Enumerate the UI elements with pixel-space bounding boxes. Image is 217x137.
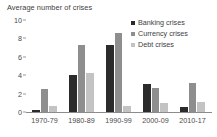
y-axis-tick-label: 0: [18, 108, 22, 117]
x-axis-line: [26, 112, 212, 113]
bar: [197, 102, 205, 112]
y-axis-tick-mark: [23, 93, 26, 94]
bar: [143, 84, 151, 112]
bar: [152, 88, 160, 112]
bar: [41, 89, 49, 112]
bar: [69, 75, 77, 112]
y-axis-tick-mark: [23, 38, 26, 39]
x-axis-tick-label: 1980-89: [68, 116, 94, 125]
y-axis-tick-mark: [23, 75, 26, 76]
y-axis-tick-label: 6: [18, 52, 22, 61]
bar-chart: Average number of crises 0246810 Banking…: [0, 0, 217, 137]
y-axis-tick-label: 10: [14, 16, 22, 25]
y-axis-tick-label: 2: [18, 89, 22, 98]
bar: [160, 103, 168, 112]
y-axis: 0246810: [0, 0, 22, 137]
y-axis-tick-mark: [23, 112, 26, 113]
chart-legend: Banking crisesCurrency crisesDebt crises: [131, 18, 188, 51]
legend-swatch-icon: [131, 32, 135, 36]
bar: [123, 106, 131, 112]
bar: [106, 45, 114, 112]
bar: [86, 73, 94, 112]
bar-group: [32, 20, 56, 112]
legend-item: Currency crises: [131, 29, 188, 39]
y-axis-tick-label: 8: [18, 34, 22, 43]
bar-group: [106, 20, 130, 112]
legend-item: Banking crises: [131, 18, 188, 28]
bar: [32, 110, 40, 112]
x-axis-tick-label: 1990-99: [105, 116, 131, 125]
bar: [189, 83, 197, 112]
bar: [78, 45, 86, 112]
bar: [49, 106, 57, 112]
x-axis-tick-label: 1970-79: [31, 116, 57, 125]
legend-label: Banking crises: [138, 19, 185, 26]
legend-label: Debt crises: [138, 41, 174, 48]
legend-item: Debt crises: [131, 40, 188, 50]
legend-label: Currency crises: [138, 30, 188, 37]
y-axis-tick-mark: [23, 56, 26, 57]
bar-group: [69, 20, 93, 112]
x-axis-tick-label: 2010-17: [179, 116, 205, 125]
legend-swatch-icon: [131, 21, 135, 25]
x-axis-tick-label: 2000-09: [142, 116, 168, 125]
bar: [115, 33, 123, 112]
legend-swatch-icon: [131, 43, 135, 47]
bar: [180, 107, 188, 112]
y-axis-tick-mark: [23, 20, 26, 21]
y-axis-tick-label: 4: [18, 71, 22, 80]
